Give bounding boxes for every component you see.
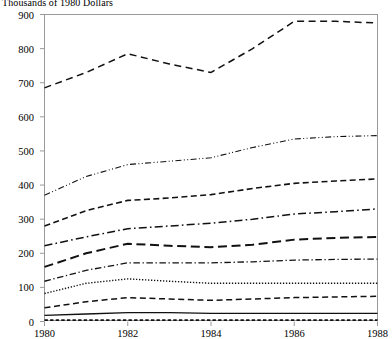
series-line-8 [45, 296, 378, 308]
y-tick-label: 200 [0, 248, 34, 259]
y-tick-label: 600 [0, 111, 34, 122]
x-tick-label: 1982 [105, 328, 151, 339]
x-tick-label: 1986 [271, 328, 317, 339]
x-tick-label: 1988 [355, 328, 392, 339]
y-tick-label: 0 [0, 316, 34, 327]
series-line-7 [45, 279, 378, 294]
y-tick-label: 900 [0, 9, 34, 20]
series-line-2 [45, 136, 378, 196]
series-line-4 [45, 209, 378, 246]
chart-container: Thousands of 1980 Dollars 01002003004005… [0, 0, 392, 339]
series-line-9 [45, 313, 378, 316]
series-line-5 [45, 237, 378, 267]
y-tick-label: 100 [0, 282, 34, 293]
x-tick-label: 1980 [22, 328, 68, 339]
chart-svg [0, 0, 392, 339]
x-tick-label: 1984 [188, 328, 234, 339]
series-line-6 [45, 259, 378, 281]
y-tick-label: 700 [0, 77, 34, 88]
y-tick-label: 800 [0, 43, 34, 54]
y-tick-label: 400 [0, 180, 34, 191]
series-line-3 [45, 179, 378, 226]
series-line-1 [45, 21, 378, 88]
y-tick-label: 500 [0, 145, 34, 156]
y-tick-label: 300 [0, 214, 34, 225]
